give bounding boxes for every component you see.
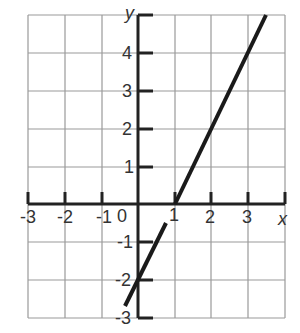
y-tick-label: -3 — [115, 309, 131, 327]
origin-label: 0 — [117, 207, 127, 225]
x-tick-label: 3 — [242, 208, 252, 226]
y-tick-label: 1 — [124, 158, 134, 176]
function-line — [125, 15, 266, 306]
x-tick-label: 1 — [169, 206, 179, 224]
x-tick-label: -2 — [57, 208, 73, 226]
coordinate-plane — [0, 0, 300, 333]
y-tick-label: 2 — [122, 120, 132, 138]
y-tick-label: 3 — [122, 82, 132, 100]
x-tick-label: 2 — [205, 208, 215, 226]
x-tick-label: -1 — [96, 208, 112, 226]
y-axis-label: y — [125, 4, 134, 22]
y-tick-label: -1 — [117, 233, 133, 251]
x-axis-label: x — [278, 210, 287, 228]
y-tick-label: -2 — [115, 271, 131, 289]
x-tick-label: -3 — [20, 208, 36, 226]
grid — [28, 15, 285, 318]
y-tick-label: 4 — [122, 44, 132, 62]
